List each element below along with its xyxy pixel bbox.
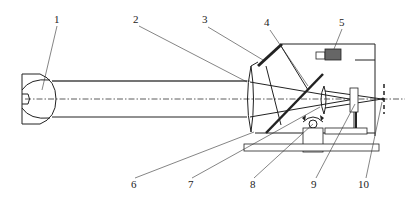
- upper-mirror: [258, 44, 282, 66]
- optical-system-diagram: 1 2 3 4 5 6 7 8 9 10: [0, 0, 415, 203]
- sample-plate: [325, 88, 367, 134]
- label-10: 10: [358, 178, 370, 190]
- focal-point: [382, 98, 385, 101]
- ray-paths: [52, 46, 355, 125]
- label-2: 2: [133, 13, 139, 25]
- label-5: 5: [339, 16, 345, 28]
- label-4: 4: [264, 16, 270, 28]
- label-1: 1: [54, 13, 60, 25]
- base-platform: [244, 144, 379, 151]
- primary-optic: [248, 62, 259, 132]
- label-9: 9: [311, 178, 317, 190]
- label-6: 6: [131, 178, 137, 190]
- beam-splitter: [266, 74, 323, 133]
- label-8: 8: [250, 178, 256, 190]
- label-3: 3: [202, 13, 208, 25]
- label-7: 7: [188, 178, 194, 190]
- detector: [316, 49, 341, 60]
- focus-lens: [321, 86, 326, 114]
